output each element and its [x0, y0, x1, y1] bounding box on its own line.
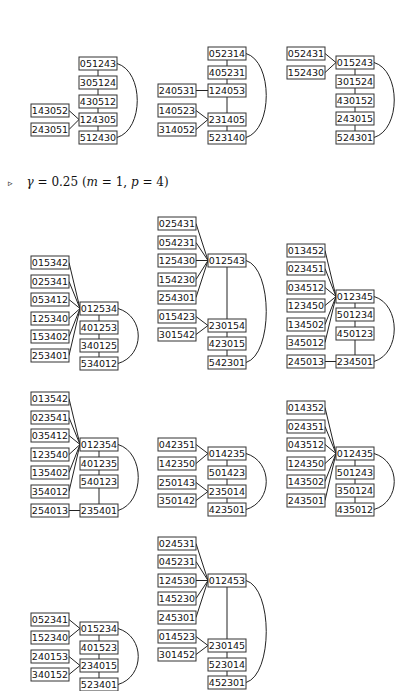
- node-label: 014523: [159, 631, 195, 642]
- m-label: m: [87, 175, 98, 189]
- permutation-node: 243501: [287, 494, 325, 507]
- edge: [196, 120, 208, 130]
- node-label: 534012: [81, 358, 117, 369]
- node-label: 053412: [32, 294, 68, 305]
- permutation-node: 243051: [31, 123, 69, 136]
- node-label: 250143: [159, 477, 195, 488]
- node-label: 540123: [81, 476, 117, 487]
- node-label: 054231: [159, 237, 195, 248]
- permutation-node: 012345: [336, 290, 374, 303]
- node-label: 235401: [81, 505, 117, 516]
- node-label: 245301: [159, 612, 195, 623]
- node-label: 405231: [209, 67, 245, 78]
- node-label: 052314: [209, 48, 245, 59]
- node-label: 014235: [209, 448, 245, 459]
- node-label: 023541: [32, 412, 68, 423]
- permutation-node: 043512: [287, 438, 325, 451]
- node-label: 523014: [209, 659, 245, 670]
- node-label: 140523: [159, 105, 195, 116]
- graph-g8: 0423511423502501433501420142355014232350…: [158, 438, 266, 516]
- edge: [325, 54, 336, 63]
- permutation-node: 235401: [80, 504, 118, 517]
- permutation-node: 314052: [158, 123, 196, 136]
- node-label: 235014: [209, 486, 245, 497]
- node-label: 430512: [80, 96, 116, 107]
- arc-edge: [246, 261, 266, 363]
- node-label: 240531: [159, 85, 195, 96]
- permutation-node: 013452: [287, 244, 325, 257]
- node-label: 542301: [209, 357, 245, 368]
- node-label: 423501: [209, 504, 245, 515]
- permutation-node: 501423: [208, 466, 246, 479]
- permutation-node: 052314: [208, 47, 246, 60]
- node-label: 124350: [288, 458, 324, 469]
- node-label: 245013: [288, 356, 324, 367]
- node-label: 401235: [81, 458, 117, 469]
- permutation-node: 052431: [287, 47, 325, 60]
- node-label: 023451: [288, 263, 324, 274]
- edge: [196, 483, 208, 492]
- node-label: 015342: [32, 257, 68, 268]
- triangle-marker-icon: ▹: [8, 178, 13, 188]
- edge: [69, 620, 80, 629]
- edge: [196, 224, 208, 261]
- permutation-node: 014235: [208, 447, 246, 460]
- node-label: 012453: [209, 575, 245, 586]
- node-label: 014352: [288, 402, 324, 413]
- edge: [196, 326, 208, 335]
- graph-g9: 0143520243510435121243501435022435010124…: [287, 401, 394, 516]
- node-label: 123450: [288, 300, 324, 311]
- edge: [196, 637, 208, 646]
- node-label: 231405: [209, 114, 245, 125]
- edge: [325, 63, 336, 73]
- node-label: 435012: [337, 504, 373, 515]
- edges: [69, 399, 138, 511]
- node-label: 012534: [81, 303, 117, 314]
- graph-g10: 0245310452311245301452302453010145233014…: [158, 537, 266, 689]
- edge: [196, 243, 208, 261]
- m-value: = 1,: [98, 175, 131, 189]
- node-label: 135402: [32, 467, 68, 478]
- node-label: 501234: [337, 309, 373, 320]
- node-label: 152340: [32, 632, 68, 643]
- permutation-node: 301542: [158, 328, 196, 341]
- permutation-node: 015243: [336, 56, 374, 69]
- permutation-node: 135402: [31, 466, 69, 479]
- edge: [196, 317, 208, 326]
- node-label: 301452: [159, 649, 195, 660]
- permutation-node: 015342: [31, 256, 69, 269]
- node-label: 125340: [32, 313, 68, 324]
- gamma-symbol: γ: [27, 175, 34, 189]
- edge: [196, 646, 208, 655]
- permutation-node: 345012: [287, 336, 325, 349]
- node-label: 052341: [32, 614, 68, 625]
- permutation-node: 253401: [31, 349, 69, 362]
- node-label: 035412: [32, 430, 68, 441]
- permutation-node: 401235: [80, 457, 118, 470]
- permutation-node: 023541: [31, 411, 69, 424]
- edge: [196, 581, 208, 618]
- node-label: 254301: [159, 292, 195, 303]
- permutation-node: 405231: [208, 66, 246, 79]
- node-label: 234015: [81, 660, 117, 671]
- node-label: 013452: [288, 245, 324, 256]
- permutation-node: 125340: [31, 312, 69, 325]
- node-label: 452301: [209, 677, 245, 688]
- permutation-node: 452301: [208, 676, 246, 689]
- permutation-node: 042351: [158, 438, 196, 451]
- permutation-node: 153402: [31, 330, 69, 343]
- node-label: 314052: [159, 124, 195, 135]
- permutation-node: 250143: [158, 476, 196, 489]
- node-label: 024351: [288, 421, 324, 432]
- arc-edge: [118, 309, 138, 364]
- permutation-node: 231405: [208, 113, 246, 126]
- node-label: 123540: [32, 449, 68, 460]
- node-label: 450123: [337, 328, 373, 339]
- permutation-node: 034512: [287, 281, 325, 294]
- permutation-node: 140523: [158, 104, 196, 117]
- node-label: 305124: [80, 77, 116, 88]
- permutation-node: 124350: [287, 457, 325, 470]
- permutation-node: 045231: [158, 555, 196, 568]
- node-label: 143052: [32, 105, 68, 116]
- permutation-node: 015423: [158, 310, 196, 323]
